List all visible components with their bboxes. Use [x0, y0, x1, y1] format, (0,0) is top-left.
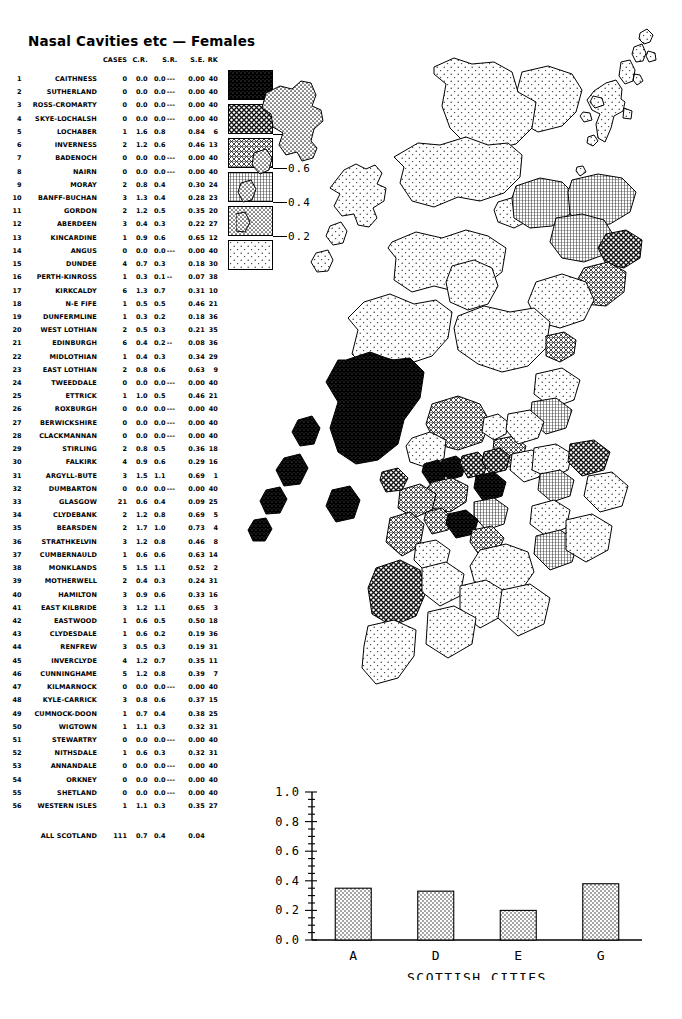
- table-row[interactable]: 4SKYE-LOCHALSH00.00.0---0.0040: [6, 113, 218, 126]
- row-rank: 29: [205, 351, 218, 364]
- row-index: 25: [6, 390, 26, 403]
- table-row[interactable]: 51STEWARTRY00.00.0---0.0040: [6, 734, 218, 747]
- row-district-name: BADENOCH: [26, 152, 103, 165]
- table-row[interactable]: 52NITHSDALE10.60.30.3231: [6, 747, 218, 760]
- table-row[interactable]: 31ARGYLL-BUTE31.51.10.691: [6, 470, 218, 483]
- table-row[interactable]: 1CAITHNESS00.00.0---0.0040: [6, 73, 218, 86]
- table-row[interactable]: 11GORDON21.20.50.3520: [6, 205, 218, 218]
- table-row[interactable]: 48KYLE-CARRICK30.80.60.3715: [6, 694, 218, 707]
- table-row[interactable]: 9MORAY20.80.40.3024: [6, 179, 218, 192]
- table-row[interactable]: 41EAST KILBRIDE31.21.10.653: [6, 602, 218, 615]
- table-row[interactable]: 16PERTH-KINROSS10.30.1--0.0738: [6, 271, 218, 284]
- table-row[interactable]: 53ANNANDALE00.00.0---0.0040: [6, 760, 218, 773]
- row-rank: 25: [205, 496, 218, 509]
- table-row[interactable]: 20WEST LOTHIAN20.50.30.2135: [6, 324, 218, 337]
- row-rank: 12: [205, 232, 218, 245]
- table-row[interactable]: 50WIGTOWN11.10.30.3231: [6, 721, 218, 734]
- table-row[interactable]: 47KILMARNOCK00.00.0---0.0040: [6, 681, 218, 694]
- region-cumnock-doon: [422, 562, 464, 606]
- table-row[interactable]: 55SHETLAND00.00.0---0.0040: [6, 787, 218, 800]
- row-significance-dashes: [166, 694, 178, 707]
- row-rank: 20: [205, 205, 218, 218]
- table-row[interactable]: 34CLYDEBANK21.20.80.695: [6, 509, 218, 522]
- row-index: 15: [6, 258, 26, 271]
- table-row[interactable]: 25ETTRICK11.00.50.4621: [6, 390, 218, 403]
- row-standard-error: 0.21: [177, 324, 204, 337]
- x-tick-label-0: A: [349, 948, 357, 963]
- table-row[interactable]: 44RENFREW30.50.30.1931: [6, 641, 218, 654]
- table-row[interactable]: 56WESTERN ISLES11.10.30.3527: [6, 800, 218, 813]
- table-row[interactable]: 17KIRKCALDY61.30.70.3110: [6, 285, 218, 298]
- row-cases: 0: [103, 377, 127, 390]
- row-district-name: MOTHERWELL: [26, 575, 103, 588]
- row-index: 44: [6, 641, 26, 654]
- table-row[interactable]: 54ORKNEY00.00.0---0.0040: [6, 774, 218, 787]
- row-district-name: ARGYLL-BUTE: [26, 470, 103, 483]
- table-row[interactable]: 46CUNNINGHAME51.20.80.397: [6, 668, 218, 681]
- table-row[interactable]: 26ROXBURGH00.00.0---0.0040: [6, 403, 218, 416]
- row-cases: 0: [103, 734, 127, 747]
- row-crude-rate: 0.3: [127, 271, 148, 284]
- table-row[interactable]: 19DUNFERMLINE10.30.20.1836: [6, 311, 218, 324]
- table-row[interactable]: 49CUMNOCK-DOON10.70.40.3825: [6, 708, 218, 721]
- row-standard-error: 0.63: [177, 549, 204, 562]
- row-significance-dashes: ---: [166, 99, 178, 112]
- table-row[interactable]: 7BADENOCH00.00.0---0.0040: [6, 152, 218, 165]
- table-row[interactable]: 40HAMILTON30.90.60.3316: [6, 589, 218, 602]
- table-row[interactable]: 5LOCHABER11.60.80.846: [6, 126, 218, 139]
- table-row[interactable]: 21EDINBURGH60.40.2--0.0836: [6, 337, 218, 350]
- bar-G[interactable]: [583, 884, 619, 940]
- table-row[interactable]: 6INVERNESS21.20.60.4613: [6, 139, 218, 152]
- table-row[interactable]: 43CLYDESDALE10.60.20.1936: [6, 628, 218, 641]
- table-row[interactable]: 18N-E FIFE10.50.50.4621: [6, 298, 218, 311]
- bar-D[interactable]: [418, 891, 454, 940]
- row-district-name: MONKLANDS: [26, 562, 103, 575]
- table-row[interactable]: 23EAST LOTHIAN20.80.60.639: [6, 364, 218, 377]
- row-rank: 40: [205, 377, 218, 390]
- x-axis-title: SCOTTISH CITIES: [407, 970, 547, 980]
- table-row[interactable]: 24TWEEDDALE00.00.0---0.0040: [6, 377, 218, 390]
- row-district-name: EASTWOOD: [26, 615, 103, 628]
- row-standard-error: 0.04: [177, 813, 204, 843]
- table-row[interactable]: 28CLACKMANNAN00.00.0---0.0040: [6, 430, 218, 443]
- table-row[interactable]: 12ABERDEEN30.40.30.2227: [6, 218, 218, 231]
- table-row[interactable]: 29STIRLING20.80.50.3618: [6, 443, 218, 456]
- table-row[interactable]: 32DUMBARTON00.00.0---0.0040: [6, 483, 218, 496]
- row-cases: 6: [103, 285, 127, 298]
- table-row[interactable]: 45INVERCLYDE41.20.70.3511: [6, 655, 218, 668]
- table-row[interactable]: 35BEARSDEN21.71.00.734: [6, 522, 218, 535]
- row-standard-error: 0.46: [177, 536, 204, 549]
- table-row[interactable]: 15DUNDEE40.70.30.1830: [6, 258, 218, 271]
- row-cases: 2: [103, 522, 127, 535]
- table-row[interactable]: 39MOTHERWELL20.40.30.2431: [6, 575, 218, 588]
- row-standard-error: 0.65: [177, 232, 204, 245]
- row-cases: 1: [103, 232, 127, 245]
- row-standard-error: 0.63: [177, 364, 204, 377]
- table-row[interactable]: 36STRATHKELVIN31.20.80.468: [6, 536, 218, 549]
- table-row[interactable]: 30FALKIRK40.90.60.2916: [6, 456, 218, 469]
- table-row[interactable]: 22MIDLOTHIAN10.40.30.3429: [6, 351, 218, 364]
- table-row[interactable]: 38MONKLANDS51.51.10.522: [6, 562, 218, 575]
- table-row[interactable]: 3ROSS-CROMARTY00.00.0---0.0040: [6, 99, 218, 112]
- table-row[interactable]: 27BERWICKSHIRE00.00.0---0.0040: [6, 417, 218, 430]
- region-dundee: [546, 332, 576, 362]
- table-row[interactable]: 10BANFF-BUCHAN31.30.40.2823: [6, 192, 218, 205]
- row-cases: 0: [103, 483, 127, 496]
- table-row[interactable]: 14ANGUS00.00.0---0.0040: [6, 245, 218, 258]
- row-index: [6, 813, 26, 843]
- row-index: 27: [6, 417, 26, 430]
- row-standard-error: 0.00: [177, 760, 204, 773]
- table-row[interactable]: 33GLASGOW210.60.40.0925: [6, 496, 218, 509]
- row-standard-rate: 0.0: [148, 417, 166, 430]
- bar-E[interactable]: [500, 910, 536, 940]
- row-rank: 31: [205, 575, 218, 588]
- table-row[interactable]: 8NAIRN00.00.0---0.0040: [6, 166, 218, 179]
- bar-A[interactable]: [335, 888, 371, 940]
- table-row[interactable]: 42EASTWOOD10.60.50.5018: [6, 615, 218, 628]
- table-row[interactable]: 2SUTHERLAND00.00.0---0.0040: [6, 86, 218, 99]
- row-significance-dashes: ---: [166, 403, 178, 416]
- table-row[interactable]: 13KINCARDINE10.90.60.6512: [6, 232, 218, 245]
- row-district-name: DUNDEE: [26, 258, 103, 271]
- table-row[interactable]: ALL SCOTLAND1110.70.40.04: [6, 813, 218, 843]
- table-row[interactable]: 37CUMBERNAULD10.60.60.6314: [6, 549, 218, 562]
